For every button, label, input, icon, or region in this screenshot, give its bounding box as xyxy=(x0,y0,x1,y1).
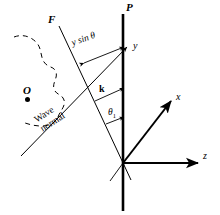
wavefront-F-line xyxy=(59,26,131,180)
theta1-angle-label: θ1 xyxy=(108,108,116,119)
source-point-dot xyxy=(25,97,30,102)
theta1-subscript: 1 xyxy=(113,112,116,119)
wavefront-F-label: F xyxy=(48,14,55,25)
optics-diagram-figure: P F O y x z k y sin θ θ1 Wave normal xyxy=(0,0,220,215)
wave-normal-line xyxy=(21,47,127,156)
axis-tail-line xyxy=(110,163,123,181)
y-axis-label: y xyxy=(133,41,137,51)
y-sin-theta-arrow xyxy=(84,47,124,63)
z-axis-label: z xyxy=(203,151,207,161)
source-O-label: O xyxy=(23,85,31,96)
plane-P-label: P xyxy=(126,2,133,13)
x-axis xyxy=(123,101,171,163)
x-axis-label: x xyxy=(176,92,180,102)
k-vector-label: k xyxy=(99,84,105,94)
